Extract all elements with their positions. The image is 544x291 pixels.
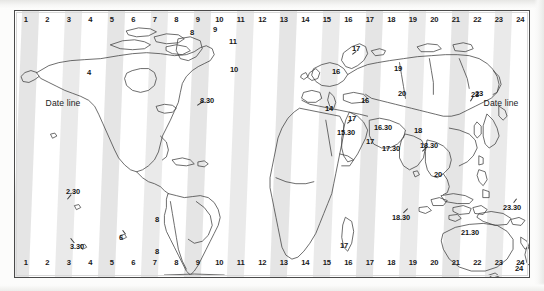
zone-label-s-america-n: 6 [119, 233, 123, 242]
zone-label-russia-east: 20 [398, 89, 406, 98]
zone-label-turkey: 14 [325, 104, 333, 113]
zone-label-india: 17.30 [382, 144, 400, 153]
scan-edge-shadow-bottom [0, 283, 544, 291]
zone-label-south-africa: 17 [340, 241, 348, 250]
dateline-label-left: Date line [46, 98, 81, 108]
zone-label-greenland-mid: 9 [213, 25, 217, 34]
zone-label-gulf: 17 [366, 137, 374, 146]
zone-label-indochina: 20 [434, 170, 442, 179]
zone-label-arabia: 15.30 [337, 128, 355, 137]
zone-label-s-america-e: 8 [155, 215, 159, 224]
zone-label-iceland: 10 [230, 65, 238, 74]
zone-label-newfoundland: 8.30 [200, 96, 214, 105]
zone-label-greenland-west: 8 [190, 28, 194, 37]
map-frame: 123456789101112131415161718192021222324 … [14, 10, 530, 278]
zone-label-na-mountain: 4 [87, 68, 91, 77]
zone-label-pacific-ne: 23 [475, 89, 483, 98]
zone-label-baltic: 16 [332, 67, 340, 76]
zone-label-australia-central: 21.30 [461, 228, 479, 237]
zone-label-iran: 16.30 [374, 123, 392, 132]
zone-label-pacific-marquesas: 2.30 [66, 187, 80, 196]
zone-label-caspian: 17 [348, 114, 356, 123]
zone-label-caucasus: 16 [361, 96, 369, 105]
zone-label-indian-ocean: 18.30 [392, 213, 410, 222]
zone-label-china: 18 [414, 126, 422, 135]
zone-label-scandinavia: 17 [352, 44, 360, 53]
zone-label-greenland-east: 11 [229, 37, 237, 46]
zone-label-russia-central: 19 [394, 64, 402, 73]
scan-edge-shadow-right [534, 0, 544, 291]
dateline-label-right: Date line [484, 98, 519, 108]
world-time-zone-map-figure: 123456789101112131415161718192021222324 … [0, 0, 544, 291]
zone-label-pacific-chatham: 24 [515, 264, 523, 273]
zone-label-burma: 18.30 [420, 141, 438, 150]
scan-edge-shadow-top [0, 0, 544, 9]
zone-label-new-zealand: 23.30 [503, 203, 521, 212]
zone-label-pacific-south: 3.30 [70, 242, 84, 251]
zone-label-layer: 48911108.30171619202314161716.3015.30171… [15, 11, 529, 277]
zone-label-s-america-se: 8 [155, 247, 159, 256]
